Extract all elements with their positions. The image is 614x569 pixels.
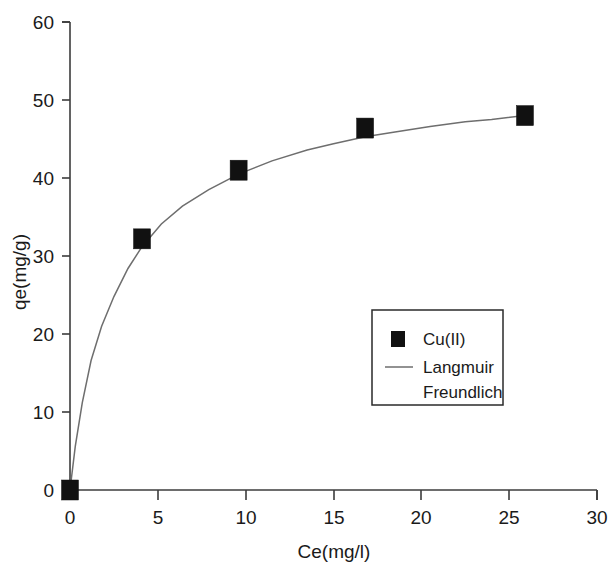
x-tick-label-20: 20	[410, 507, 431, 528]
y-tick-label-10: 10	[33, 402, 54, 423]
data-point-marker	[230, 160, 247, 180]
chart-legend: Cu(II) Langmuir Freundlich	[372, 310, 503, 405]
x-tick-label-5: 5	[153, 507, 164, 528]
x-tick-label-25: 25	[498, 507, 519, 528]
x-tick-label-0: 0	[65, 507, 76, 528]
y-tick-label-50: 50	[33, 90, 54, 111]
chart-figure: 0 10 20 30 40 50 60 0 5 10 15 20 25 30 C…	[0, 0, 614, 569]
x-axis-title: Ce(mg/l)	[298, 541, 371, 562]
data-point-marker	[516, 106, 533, 126]
y-tick-label-0: 0	[43, 480, 54, 501]
x-tick-label-15: 15	[323, 507, 344, 528]
data-point-marker	[357, 118, 374, 138]
legend-label-freundlich: Freundlich	[423, 383, 502, 402]
legend-square-marker-icon	[391, 331, 405, 347]
langmuir-curve	[70, 116, 525, 490]
legend-label-cu2: Cu(II)	[423, 330, 466, 349]
legend-label-langmuir: Langmuir	[423, 358, 494, 377]
data-point-marker	[134, 229, 151, 249]
y-tick-label-60: 60	[33, 12, 54, 33]
data-point-marker	[62, 480, 79, 500]
adsorption-isotherm-chart: 0 10 20 30 40 50 60 0 5 10 15 20 25 30 C…	[0, 0, 614, 569]
y-tick-label-30: 30	[33, 246, 54, 267]
data-point-group	[62, 106, 534, 500]
y-tick-label-40: 40	[33, 168, 54, 189]
y-tick-marks	[62, 22, 70, 490]
x-tick-marks	[70, 490, 597, 500]
y-axis-title: qe(mg/g)	[9, 234, 30, 310]
y-tick-label-20: 20	[33, 324, 54, 345]
x-tick-label-10: 10	[235, 507, 256, 528]
x-tick-label-30: 30	[586, 507, 607, 528]
